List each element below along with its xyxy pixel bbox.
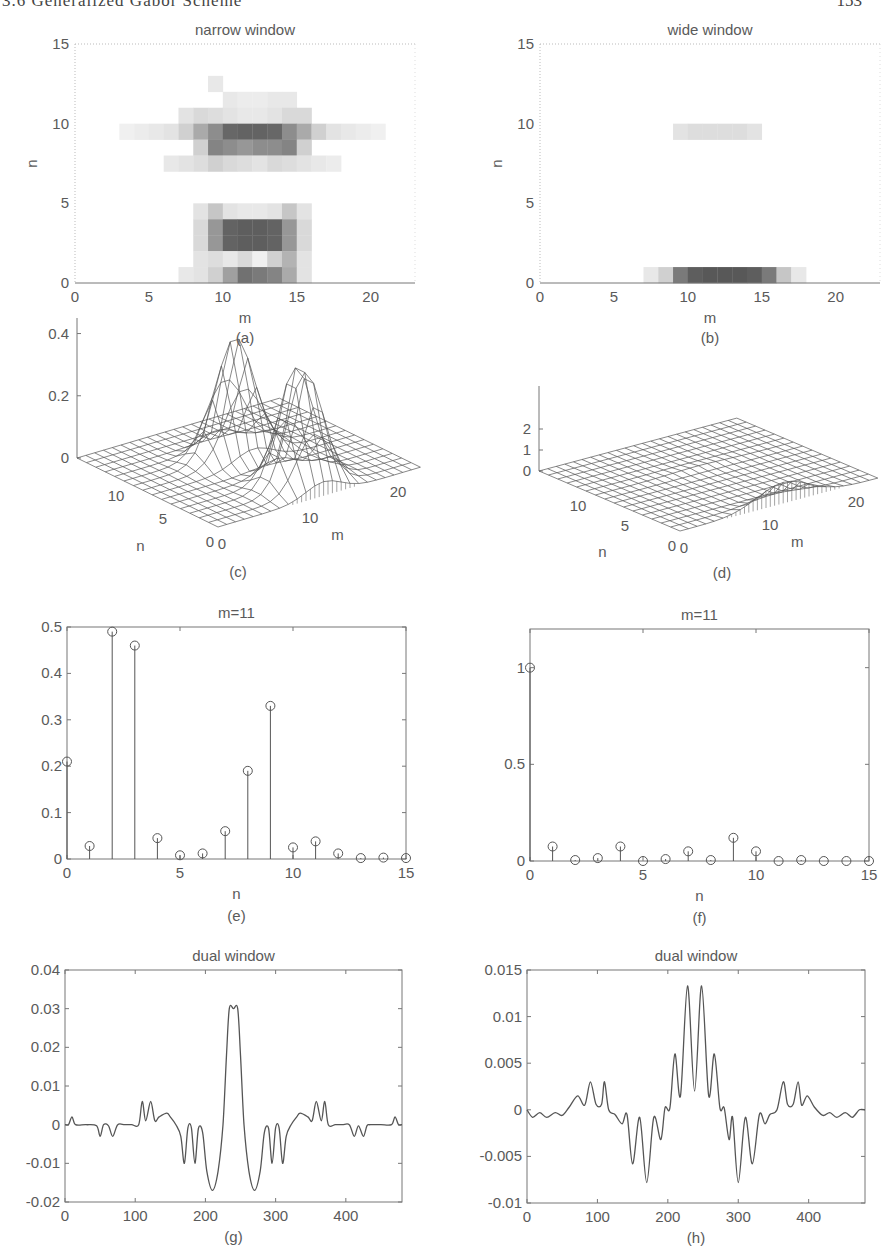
mesh-line-m (147, 431, 288, 504)
heatmap-cell (703, 124, 718, 140)
m-tick-label: 10 (762, 516, 779, 533)
x-tick-label: 10 (285, 864, 302, 881)
m-tick-label: 20 (390, 483, 407, 500)
x-tick-label: 200 (655, 1208, 680, 1225)
heatmap-cell (178, 156, 193, 172)
y-tick-label: 0.01 (493, 1008, 522, 1025)
heatmap-cell (208, 219, 223, 235)
x-tick-label: 100 (123, 1207, 148, 1224)
heatmap-cell (238, 124, 253, 140)
heatmap-cell (312, 156, 327, 172)
heatmap-cell (119, 124, 134, 140)
mesh-line-m (651, 441, 792, 493)
y-tick-label: 0.5 (41, 618, 62, 635)
panel-caption: (a) (236, 329, 254, 346)
n-tick-label: 5 (621, 517, 629, 534)
heatmap-cell (238, 251, 253, 267)
heatmap-cell (282, 235, 297, 251)
chart-title: narrow window (195, 21, 295, 38)
x-tick-label: 15 (288, 288, 305, 305)
heatmap-cell (717, 124, 732, 140)
x-tick-label: 10 (748, 866, 765, 883)
x-tick-label: 15 (753, 288, 770, 305)
y-tick-label: 0.02 (31, 1038, 60, 1055)
heatmap-cell (267, 156, 282, 172)
x-tick-label: 5 (610, 288, 618, 305)
chart-title: m=11 (218, 604, 255, 621)
heatmap-cell (238, 267, 253, 283)
y-axis-label: n (488, 159, 505, 167)
x-axis-label: m (791, 533, 804, 550)
figure: 05101520051015narrow windowmn(a) 0510152… (0, 0, 890, 1253)
heatmap-cell (282, 124, 297, 140)
heatmap-cell (297, 156, 312, 172)
y-tick-label: 15 (52, 35, 69, 52)
y-tick-label: 0.015 (484, 961, 522, 978)
heatmap-cell (164, 124, 179, 140)
panel-h-dual-window-wide: 0100200300400-0.01-0.00500.0050.010.015d… (479, 947, 865, 1246)
heatmap-cell (267, 251, 282, 267)
heatmap-cell (326, 124, 341, 140)
heatmap-cell (223, 251, 238, 267)
heatmap-cell (134, 124, 149, 140)
heatmap-cell (252, 108, 267, 124)
heatmap-cell (238, 203, 253, 219)
mesh-line-m (156, 400, 297, 499)
heatmap-cell (178, 108, 193, 124)
x-tick-label: 5 (145, 288, 153, 305)
heatmap-cell (762, 267, 777, 283)
chart-title: dual window (192, 947, 275, 964)
x-tick-label: 300 (263, 1207, 288, 1224)
heatmap-cell (208, 235, 223, 251)
mesh-line-n (577, 434, 775, 487)
chart-title: wide window (666, 21, 752, 38)
heatmap-cell (223, 235, 238, 251)
mesh-line-n (614, 450, 812, 503)
heatmap-cell (371, 124, 386, 140)
m-tick-label: 20 (848, 493, 865, 510)
x-tick-label: 20 (827, 288, 844, 305)
x-axis-label: n (232, 885, 240, 902)
y-axis-label: n (136, 537, 144, 554)
z-tick-label: 2 (523, 420, 531, 437)
heatmap-cell (297, 219, 312, 235)
heatmap-cell (282, 203, 297, 219)
heatmap-cell (223, 108, 238, 124)
panel-caption: (d) (713, 564, 731, 581)
heatmap-cell (238, 156, 253, 172)
heatmap-cell (643, 267, 658, 283)
heatmap-cell (267, 235, 282, 251)
heatmap-cell (178, 267, 193, 283)
heatmap-cell (297, 108, 312, 124)
heatmap-cell (238, 235, 253, 251)
y-tick-label: 0.5 (504, 755, 525, 772)
x-tick-label: 400 (796, 1208, 821, 1225)
heatmap-cell (282, 140, 297, 156)
x-axis-label: n (695, 887, 703, 904)
y-tick-label: 10 (517, 115, 534, 132)
heatmap-cell (252, 267, 267, 283)
heatmap-cell (252, 235, 267, 251)
mesh-line-n (558, 426, 756, 479)
heatmap-cell (717, 267, 732, 283)
heatmap-cell (252, 156, 267, 172)
panel-caption: (c) (229, 563, 247, 580)
mesh-line-m (200, 387, 341, 482)
heatmap-cell (341, 124, 356, 140)
z-tick-label: 0 (523, 462, 531, 479)
x-tick-label: 0 (536, 288, 544, 305)
mesh-line-m (582, 460, 723, 519)
heatmap-cell (267, 92, 282, 108)
panel-caption: (b) (701, 329, 719, 346)
line-axes-frame (527, 970, 865, 1203)
panel-f-wide-stem: 05101500.51m=11n(f) (504, 606, 877, 926)
x-tick-label: 100 (585, 1208, 610, 1225)
x-tick-label: 10 (214, 288, 231, 305)
panel-caption: (h) (687, 1229, 705, 1246)
m-tick-label: 0 (218, 535, 226, 552)
panel-caption: (e) (227, 907, 245, 924)
heatmap-cell (223, 92, 238, 108)
x-tick-label: 10 (679, 288, 696, 305)
z-tick-label: 0.4 (48, 325, 69, 342)
dual-window-curve (65, 1005, 402, 1190)
